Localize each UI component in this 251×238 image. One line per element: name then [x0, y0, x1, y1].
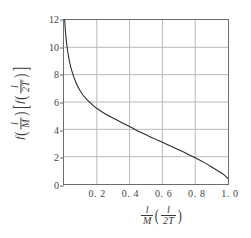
- y-title-fraction-1: lM: [10, 117, 31, 129]
- y-title-paren-open: (: [11, 131, 31, 135]
- y-tick-mark: [60, 75, 64, 76]
- y-axis-title-text: f(lM)[f(l2T)]: [9, 65, 34, 139]
- y-title-f2: f: [14, 100, 26, 103]
- y-tick-label: 4: [54, 126, 59, 136]
- x-title-paren-open: (: [155, 206, 159, 226]
- y-title-paren-close: ): [11, 111, 31, 115]
- y-tick-label: 12: [49, 15, 59, 25]
- x-tick-label: 0. 4: [122, 189, 139, 199]
- data-curve: [64, 20, 228, 184]
- y-title-paren2-close: ): [11, 73, 31, 77]
- x-axis-title: lM(l2T): [140, 205, 182, 226]
- y-tick-mark: [60, 47, 64, 48]
- x-title-fraction-1: lM: [141, 205, 153, 226]
- y-tick-label: 0: [54, 181, 59, 191]
- x-title-den2: 2T: [161, 215, 176, 226]
- x-title-paren-close: ): [178, 206, 182, 226]
- y-title-den1: M: [21, 117, 32, 129]
- x-tick-label: 0. 6: [155, 189, 172, 199]
- x-title-num1: l: [144, 205, 151, 215]
- y-title-f1: f: [14, 136, 26, 139]
- y-title-paren2-open: (: [11, 95, 31, 99]
- y-title-num1: l: [10, 120, 20, 127]
- y-tick-label: 10: [49, 43, 59, 53]
- x-title-den1: M: [141, 215, 153, 226]
- y-tick-mark: [60, 20, 64, 21]
- y-title-bracket-close: ]: [9, 66, 34, 70]
- y-title-bracket-open: [: [9, 105, 34, 109]
- y-title-den2: 2T: [21, 79, 32, 94]
- y-axis-title: f(lM)[f(l2T)]: [6, 19, 36, 185]
- y-title-fraction-2: l2T: [10, 79, 31, 94]
- y-title-num2: l: [10, 83, 20, 90]
- plot-area: 024681012 0. 20. 40. 60. 81. 0: [63, 19, 229, 185]
- x-tick-label: 0. 2: [88, 189, 105, 199]
- y-tick-label: 6: [54, 98, 59, 108]
- x-title-num2: l: [165, 205, 172, 215]
- curve-path: [65, 20, 228, 179]
- y-tick-mark: [60, 186, 64, 187]
- x-title-fraction-2: l2T: [161, 205, 176, 226]
- figure-container: f(lM)[f(l2T)] 024681012 0. 20. 40. 60. 8…: [0, 0, 251, 238]
- y-tick-label: 2: [54, 153, 59, 163]
- y-tick-mark: [60, 130, 64, 131]
- x-tick-label: 0. 8: [188, 189, 205, 199]
- y-tick-mark: [60, 158, 64, 159]
- y-tick-mark: [60, 103, 64, 104]
- x-tick-label: 1. 0: [221, 189, 238, 199]
- y-tick-label: 8: [54, 70, 59, 80]
